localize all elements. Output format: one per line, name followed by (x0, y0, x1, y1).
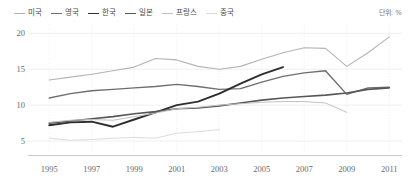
legend-swatch-icon (51, 13, 62, 14)
line-chart: 미국영국한국일본프랑스중국 단위: % 5101520 199519971999… (0, 0, 408, 183)
x-tick-label: 2005 (253, 164, 270, 174)
x-axis-line (28, 155, 402, 156)
x-tick-label: 1995 (41, 164, 58, 174)
legend-label: 중국 (220, 9, 234, 17)
legend-swatch-icon (206, 13, 217, 14)
legend-label: 영국 (65, 9, 79, 17)
legend-item-4[interactable]: 프랑스 (162, 9, 197, 17)
legend-label: 프랑스 (176, 9, 197, 17)
y-tick-label: 20 (17, 28, 26, 38)
x-tick-label: 2001 (168, 164, 185, 174)
legend-item-0[interactable]: 미국 (14, 9, 42, 17)
x-tick-label: 2003 (211, 164, 228, 174)
legend-item-3[interactable]: 일본 (125, 9, 153, 17)
legend-swatch-icon (88, 13, 99, 14)
y-tick-label: 15 (17, 64, 26, 74)
x-tick-label: 1997 (83, 164, 100, 174)
gridlines (28, 33, 402, 141)
legend-label: 미국 (28, 9, 42, 17)
unit-note: 단위: % (379, 7, 402, 17)
plot-area: 5101520 19951997199920012003200520072009… (28, 24, 402, 154)
legend-label: 일본 (139, 9, 153, 17)
plot-svg (28, 24, 402, 154)
x-tick-label: 1999 (126, 164, 143, 174)
series-line-4 (49, 102, 347, 123)
legend-item-5[interactable]: 중국 (206, 9, 234, 17)
series-line-2 (49, 67, 283, 127)
series-lines (49, 37, 389, 140)
x-tick-label: 2007 (296, 164, 313, 174)
x-tick-label: 2011 (381, 164, 398, 174)
legend-item-1[interactable]: 영국 (51, 9, 79, 17)
chart-legend: 미국영국한국일본프랑스중국 (14, 6, 234, 20)
legend-swatch-icon (14, 13, 25, 14)
legend-item-2[interactable]: 한국 (88, 9, 116, 17)
y-tick-label: 5 (21, 136, 25, 146)
legend-swatch-icon (125, 13, 136, 14)
x-tick-label: 2009 (338, 164, 355, 174)
legend-label: 한국 (102, 9, 116, 17)
y-tick-label: 10 (17, 100, 26, 110)
legend-swatch-icon (162, 13, 173, 14)
